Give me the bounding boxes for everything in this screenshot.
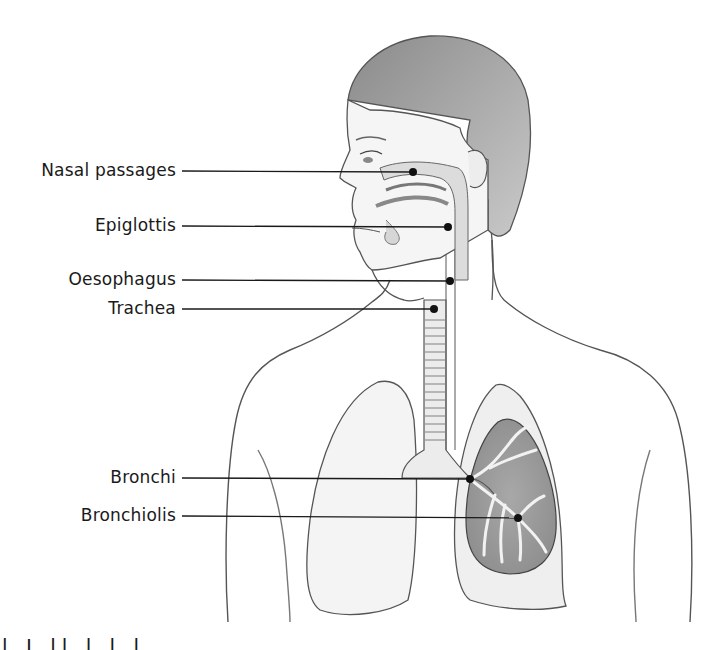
label-nasal-passages: Nasal passages (41, 160, 176, 180)
head (340, 36, 531, 280)
label-epiglottis: Epiglottis (95, 215, 176, 235)
label-bronchiolis: Bronchiolis (81, 505, 176, 525)
oesophagus (446, 230, 455, 450)
label-oesophagus: Oesophagus (68, 269, 176, 289)
lung-left-view (307, 381, 417, 614)
respiratory-illustration (0, 0, 708, 650)
caption-cutoff: l I ll l l l (2, 634, 145, 650)
label-trachea: Trachea (108, 298, 176, 318)
label-bronchi: Bronchi (110, 467, 176, 487)
